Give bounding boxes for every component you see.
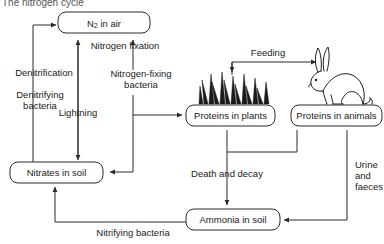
edge-label-feeding: Feeding [251,47,285,58]
edge-label-denitrification: Denitrification [15,67,73,78]
edge-label-lightning: Lightning [59,107,98,118]
node-proteins-animals-label: Proteins in animals [296,110,377,121]
node-proteins-in-plants[interactable]: Proteins in plants [186,105,275,126]
edge-nitrifying-bacteria [55,187,190,222]
node-n2-label-rest: in air [98,17,121,28]
edge-urine-and-faeces [284,130,347,220]
edge-label-nitrogen-fixing-bacteria-line2: bacteria [124,79,159,90]
edge-label-nitrifying-bacteria: Nitrifying bacteria [96,227,170,238]
page-title: The nitrogen cycle [2,0,84,8]
node-ammonia-in-soil[interactable]: Ammonia in soil [186,209,280,230]
edge-label-urine-and-faeces-line2: and [355,170,371,181]
edge-label-denitrifying-bacteria-line1: Denitrifying [16,89,64,100]
node-ammonia-label: Ammonia in soil [199,214,266,225]
node-nitrates-in-soil[interactable]: Nitrates in soil [10,162,103,183]
edge-label-nitrogen-fixation: Nitrogen fixation [91,40,160,51]
edge-nitrogen-fixing-bacteria [110,95,182,172]
node-n2-in-air[interactable]: N2 in air [58,12,150,33]
nitrogen-cycle-diagram: The nitrogen cycle [0,0,384,244]
node-proteins-in-animals[interactable]: Proteins in animals [291,105,382,126]
node-proteins-plants-label: Proteins in plants [194,110,267,121]
edge-label-urine-and-faeces-line3: faeces [355,181,383,192]
diagram-canvas: The nitrogen cycle [0,0,384,244]
edge-label-death-and-decay: Death and decay [191,168,263,179]
edge-label-urine-and-faeces-line1: Urine [355,159,378,170]
grass-tuft-illustration [199,72,269,104]
edge-feeding [232,62,316,75]
edge-label-nitrogen-fixing-bacteria-line1: Nitrogen-fixing [110,68,171,79]
svg-text:N2 in air: N2 in air [87,17,121,29]
node-nitrates-label: Nitrates in soil [27,167,87,178]
rabbit-illustration [309,47,373,104]
edge-label-denitrifying-bacteria-line2: bacteria [23,100,58,111]
